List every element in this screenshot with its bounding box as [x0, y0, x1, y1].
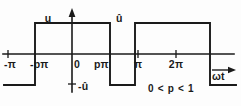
tick-label-minus-pi: -π [4, 58, 16, 70]
omega-t-axis-label: ωt [212, 70, 225, 82]
negative-amplitude-label: -û [78, 80, 88, 92]
waveform-svg: u û -û -π -pπ 0 pπ π 2π ωt 0 < p < 1 [0, 0, 241, 106]
u-axis-label: u [45, 12, 52, 24]
tick-label-pi: π [134, 58, 142, 70]
waveform-figure: u û -û -π -pπ 0 pπ π 2π ωt 0 < p < 1 [0, 0, 241, 106]
tick-label-minus-p-pi: -pπ [30, 58, 49, 70]
tick-label-zero: 0 [74, 58, 80, 70]
u-axis-arrow-icon [69, 8, 76, 17]
tick-label-p-pi: pπ [94, 58, 109, 70]
tick-label-two-pi: 2π [169, 58, 183, 70]
omega-t-arrow-icon [228, 67, 236, 73]
condition-note: 0 < p < 1 [148, 83, 194, 94]
positive-amplitude-label: û [116, 12, 123, 24]
